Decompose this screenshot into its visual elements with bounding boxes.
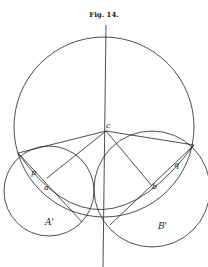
label-a: a — [44, 183, 49, 192]
label-q: q — [174, 160, 179, 169]
label-p: p — [31, 168, 36, 177]
label-a-prime: A' — [44, 217, 54, 227]
label-b-prime: B' — [157, 221, 167, 231]
line-p-a — [18, 153, 82, 222]
label-c: c — [106, 121, 111, 130]
geometry-diagram: c p q a b A' B' — [0, 0, 208, 267]
line-c-right-lower — [106, 131, 152, 186]
arc-pq — [18, 145, 194, 210]
vertical-axis — [103, 25, 106, 267]
label-b: b — [152, 182, 157, 191]
line-c-q — [106, 131, 194, 145]
